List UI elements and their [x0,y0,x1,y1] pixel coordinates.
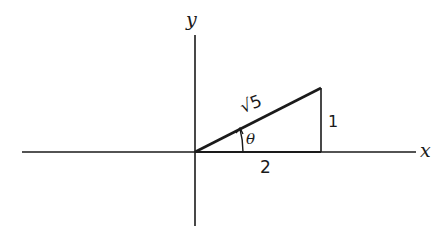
opposite-label: 1 [328,114,338,130]
y-axis-label: y [186,10,197,29]
angle-label: θ [246,132,255,147]
x-axis-label: x [420,141,431,160]
diagram-svg [0,0,438,229]
adjacent-label: 2 [260,159,271,176]
diagram-canvas: y x √5 1 2 θ [0,0,438,229]
